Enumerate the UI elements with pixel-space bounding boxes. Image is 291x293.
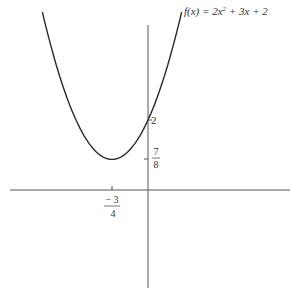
x-tick-label-denominator: 4 xyxy=(111,208,116,219)
y-tick-label-numerator: 7 xyxy=(154,146,159,157)
y-tick-label-denominator: 8 xyxy=(154,159,159,170)
parabola-curve xyxy=(42,12,181,159)
x-tick-label-numerator: − 3 xyxy=(105,194,118,205)
parabola-plot: − 3 4 2 7 8 f(x) = 2x2 + 3x + 2 xyxy=(0,0,291,293)
y-tick-label-2: 2 xyxy=(151,114,157,126)
function-label: f(x) = 2x2 + 3x + 2 xyxy=(184,5,268,18)
